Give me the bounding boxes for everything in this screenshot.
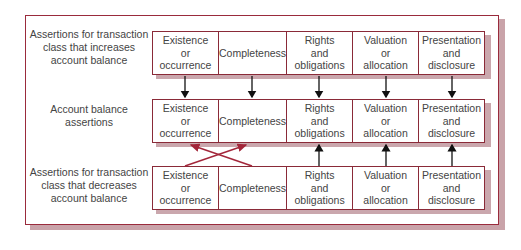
connector-arrows xyxy=(0,0,521,250)
down-arrows xyxy=(185,76,452,97)
up-arrows xyxy=(319,145,452,166)
crossed-arrows xyxy=(185,145,252,166)
